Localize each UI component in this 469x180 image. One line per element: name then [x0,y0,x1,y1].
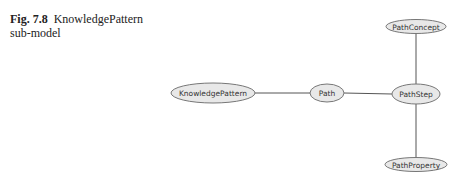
node-label-pathconcept: PathConcept [392,23,440,32]
knowledge-pattern-diagram: KnowledgePattern Path PathStep PathConce… [0,0,469,180]
node-label-knowledgepattern: KnowledgePattern [179,89,247,98]
node-label-pathproperty: PathProperty [392,161,441,170]
edge-path-pathstep [344,93,392,94]
node-label-pathstep: PathStep [399,90,433,99]
node-label-path: Path [319,89,336,98]
